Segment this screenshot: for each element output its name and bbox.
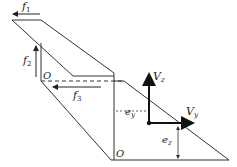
shear-flow-diagram: f1 f2 O f3 O Vz Vy ey ez [0, 0, 237, 167]
diagram-canvas: f1 f2 O f3 O Vz Vy ey ez [0, 0, 237, 167]
f3-label: f3 [72, 89, 82, 103]
Vz-label: Vz [153, 70, 165, 84]
origin-upper-label: O [43, 70, 51, 81]
f2-label: f2 [22, 54, 32, 68]
ey-label: ey [125, 106, 136, 119]
ez-label: ez [162, 134, 172, 147]
f1-label: f1 [21, 0, 31, 14]
Vy-label: Vy [186, 105, 199, 119]
origin-lower-label: O [116, 148, 124, 159]
bottom-flange [41, 81, 229, 160]
